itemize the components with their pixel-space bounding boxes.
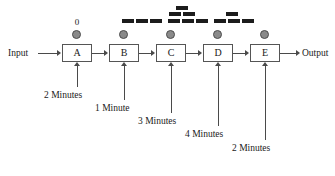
input-label: Input	[8, 48, 28, 59]
station-box-d[interactable]: D	[203, 44, 233, 62]
duration-label-c: 3 Minutes	[138, 116, 176, 127]
station-dot-b	[119, 30, 128, 39]
feed-arrow-a	[74, 62, 80, 66]
station-dot-d	[213, 30, 222, 39]
top-block-r2-7	[228, 19, 240, 23]
feed-arrow-e	[262, 62, 268, 66]
feed-arrow-b	[121, 62, 127, 66]
station-dot-a	[72, 30, 81, 39]
duration-label-b: 1 Minute	[95, 103, 130, 114]
connector-arrow-a-b	[104, 50, 108, 56]
top-block-r2-5	[196, 19, 208, 23]
feed-line-e	[265, 66, 266, 140]
top-block-r2-3	[168, 19, 180, 23]
connector-arrow-b-c	[151, 50, 155, 56]
station-dot-c	[166, 30, 175, 39]
connector-arrow-c-d	[198, 50, 202, 56]
station-box-a[interactable]: A	[62, 44, 92, 62]
top-block-r2-4	[182, 19, 194, 23]
station-box-c[interactable]: C	[156, 44, 186, 62]
feed-line-d	[218, 66, 219, 126]
duration-label-a: 2 Minutes	[44, 90, 82, 101]
station-box-e[interactable]: E	[250, 44, 280, 62]
input-connector-line	[38, 53, 58, 54]
top-block-r2-1	[136, 19, 148, 23]
top-block-r2-8	[242, 19, 254, 23]
top-block-r1-2	[226, 12, 238, 16]
input-connector-arrow	[57, 50, 61, 56]
duration-label-d: 4 Minutes	[185, 129, 223, 140]
zero-label: 0	[70, 17, 84, 27]
top-block-r0-0	[176, 6, 188, 10]
feed-line-b	[124, 66, 125, 100]
process-flow-diagram: 0 Input A B C D E Output 2 Minutes 1 Min…	[0, 0, 335, 176]
top-block-r1-0	[169, 12, 181, 16]
output-connector-arrow	[296, 50, 300, 56]
top-block-r2-2	[150, 19, 162, 23]
output-label: Output	[302, 48, 328, 59]
feed-line-c	[171, 66, 172, 113]
output-connector-line	[280, 53, 297, 54]
top-block-r1-1	[183, 12, 195, 16]
top-block-r2-6	[214, 19, 226, 23]
station-dot-e	[260, 30, 269, 39]
duration-label-e: 2 Minutes	[232, 143, 270, 154]
connector-arrow-d-e	[245, 50, 249, 56]
feed-arrow-c	[168, 62, 174, 66]
feed-line-a	[77, 66, 78, 87]
station-box-b[interactable]: B	[109, 44, 139, 62]
feed-arrow-d	[215, 62, 221, 66]
top-block-r2-0	[122, 19, 134, 23]
